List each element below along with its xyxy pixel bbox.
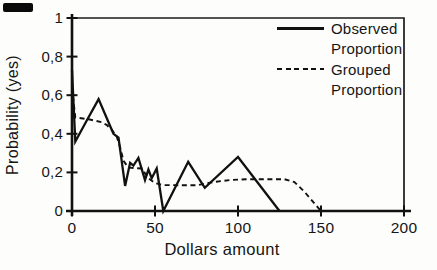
legend: Observed Proportion Grouped Proportion (277, 19, 417, 99)
legend-label-grouped: Grouped Proportion (331, 60, 417, 99)
series-line-solid (72, 70, 280, 211)
solid-line-sample-icon (277, 27, 324, 30)
probability-line-chart: 00,20,40,60,81 050100150200 Probability … (0, 0, 437, 270)
legend-item-observed: Observed Proportion (277, 19, 417, 58)
y-axis-title: Probability (yes) (4, 40, 22, 190)
legend-item-grouped: Grouped Proportion (277, 60, 417, 99)
x-axis-title: Dollars amount (137, 240, 307, 259)
dashed-line-sample-icon (277, 68, 324, 70)
legend-label-observed: Observed Proportion (331, 19, 417, 58)
series-line-dashed (72, 88, 321, 212)
